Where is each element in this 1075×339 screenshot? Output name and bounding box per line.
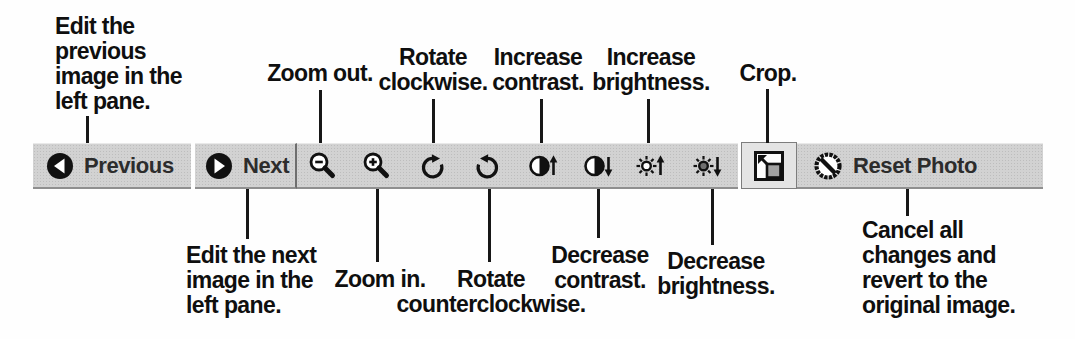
zoom-out-button[interactable]: [305, 149, 339, 183]
callout-line-rotate-clockwise: [432, 99, 435, 143]
callout-line-edit-next: [246, 189, 249, 239]
zoom-in-icon: [362, 151, 391, 180]
callout-crop: Crop.: [739, 61, 796, 86]
callout-zoom-out: Zoom out.: [267, 61, 373, 86]
callout-line-crop: [766, 89, 769, 143]
callout-line-edit-previous: [86, 116, 89, 143]
zoom-in-button[interactable]: [359, 149, 393, 183]
reset-photo-button[interactable]: Reset Photo: [813, 151, 977, 181]
previous-circle-arrow-icon: [46, 152, 74, 180]
decrease-brightness-button[interactable]: [690, 149, 724, 183]
rotate-counterclockwise-icon: [473, 151, 503, 181]
callout-decrease-brightness: Decrease brightness.: [657, 249, 774, 299]
callout-cancel-reset: Cancel all changes and revert to the ori…: [862, 218, 1015, 318]
callout-line-decrease-contrast: [597, 189, 600, 238]
decrease-contrast-button[interactable]: [581, 149, 615, 183]
previous-button[interactable]: Previous: [46, 152, 174, 180]
next-button-label: Next: [243, 155, 289, 177]
rotate-clockwise-icon: [417, 151, 447, 181]
increase-contrast-button[interactable]: [526, 149, 560, 183]
rotate-counterclockwise-button[interactable]: [471, 149, 505, 183]
callout-line-increase-brightness: [647, 99, 650, 143]
toolbar-section-next: Next: [195, 143, 297, 189]
toolbar-section-tools: [297, 143, 738, 189]
previous-button-label: Previous: [84, 155, 174, 177]
callout-line-cancel-reset: [906, 189, 909, 216]
toolbar-section-previous: Previous: [33, 143, 191, 189]
callout-decrease-contrast: Decrease contrast.: [551, 243, 649, 293]
increase-contrast-icon: [528, 151, 559, 181]
figure-photo-toolbar-diagram: Previous Next: [0, 0, 1075, 339]
zoom-out-icon: [308, 151, 337, 180]
callout-rotate-clockwise: Rotate clockwise.: [378, 45, 487, 95]
callout-line-rotate-counterclockwise: [488, 189, 491, 262]
next-circle-arrow-icon: [205, 152, 233, 180]
reset-prohibition-icon: [813, 151, 843, 181]
increase-brightness-button[interactable]: [633, 149, 667, 183]
callout-increase-contrast: Increase contrast.: [492, 45, 584, 95]
crop-button[interactable]: [741, 142, 797, 189]
callout-edit-next: Edit the next image in the left pane.: [186, 243, 316, 318]
toolbar-section-reset: Reset Photo: [797, 143, 1043, 189]
callout-line-increase-contrast: [540, 99, 543, 143]
increase-brightness-icon: [635, 151, 666, 181]
callout-line-zoom-out: [319, 90, 322, 143]
callout-increase-brightness: Increase brightness.: [592, 45, 709, 95]
callout-line-zoom-in: [376, 189, 379, 262]
callout-line-decrease-brightness: [711, 189, 714, 245]
decrease-contrast-icon: [583, 151, 614, 181]
reset-photo-button-label: Reset Photo: [853, 155, 977, 177]
next-button[interactable]: Next: [205, 152, 289, 180]
crop-icon: [751, 148, 787, 184]
decrease-brightness-icon: [692, 151, 723, 181]
callout-edit-previous: Edit the previous image in the left pane…: [55, 14, 182, 114]
rotate-clockwise-button[interactable]: [415, 149, 449, 183]
